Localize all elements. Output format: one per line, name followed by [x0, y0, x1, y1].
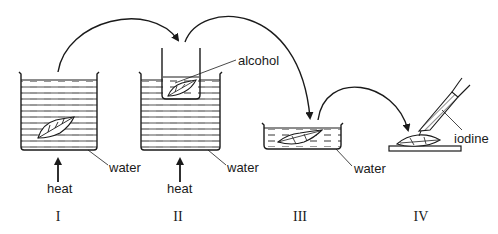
- step-1-water-label: water: [109, 161, 141, 174]
- step-3-water-pointer: [336, 149, 352, 166]
- step-4-leaf-icon: [397, 135, 440, 146]
- diagram-canvas: [0, 0, 498, 234]
- alcohol-label: alcohol: [238, 54, 279, 67]
- step-4-slide: [389, 146, 461, 151]
- step-1-heat-label: heat: [47, 182, 72, 195]
- step-1-beaker: [19, 72, 99, 150]
- step-2-heat-label: heat: [167, 182, 192, 195]
- step-4-numeral: IV: [414, 210, 429, 224]
- arrow-1-to-2-icon: [58, 19, 178, 72]
- iodine-label: iodine: [454, 132, 489, 145]
- step-4-iodine-pointer: [442, 110, 462, 130]
- step-4-dropper-icon: [419, 78, 470, 136]
- step-2-water-pointer: [208, 150, 226, 165]
- step-1-numeral: I: [56, 210, 61, 224]
- step-3-numeral: III: [293, 210, 307, 224]
- step-1-water-pointer: [88, 150, 108, 165]
- step-2-numeral: II: [173, 210, 182, 224]
- arrow-3-to-4-icon: [318, 87, 408, 130]
- step-3-water-label: water: [354, 162, 386, 175]
- step-2-water-label: water: [227, 161, 259, 174]
